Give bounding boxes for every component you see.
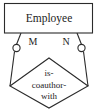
relationship-label-line3: with	[41, 91, 58, 101]
er-diagram-canvas: Employee M N is- coauthor- with	[0, 0, 99, 111]
edge-left-role-to-relationship	[10, 52, 15, 87]
edge-entity-to-left-role	[17, 33, 22, 45]
relationship-label-line2: coauthor-	[32, 80, 66, 90]
er-diagram-svg: Employee M N is- coauthor- with	[0, 0, 99, 111]
role-circle-left[interactable]	[13, 44, 20, 51]
edge-entity-to-right-role	[77, 33, 82, 45]
cardinality-label-left: M	[29, 36, 38, 47]
cardinality-label-right: N	[62, 36, 69, 47]
role-circle-right[interactable]	[78, 44, 85, 51]
entity-label-employee: Employee	[26, 12, 73, 25]
edge-right-role-to-relationship	[84, 52, 89, 87]
relationship-label-line1: is-	[45, 68, 54, 78]
